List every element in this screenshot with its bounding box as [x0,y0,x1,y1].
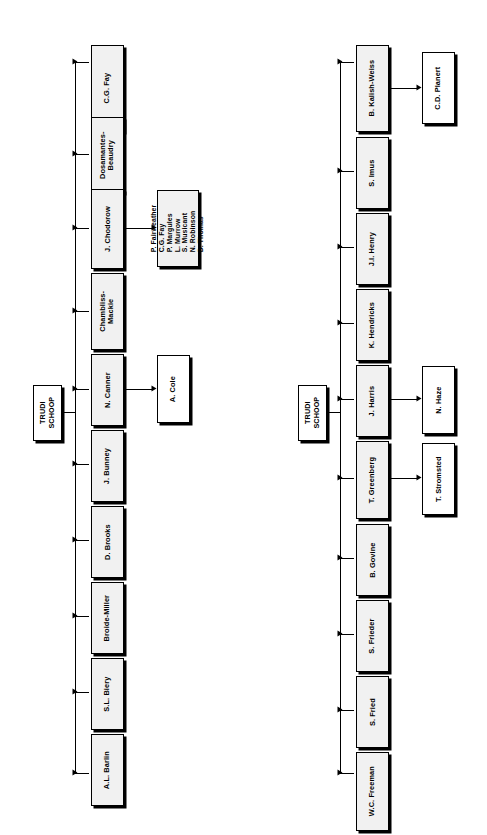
node-broide-miller: Broide-Miller [91,582,124,654]
node-b-kalish-weiss: B. Kalish-Weiss [356,45,389,132]
node-chodorow-students-list: P. Fairweather C.G. Fay P. Margules L. M… [157,190,199,267]
root-node-trudi-schoop-lower: TRUDI SCHOOP [298,385,327,441]
node-label: Chambliss- Mackie [99,291,116,332]
node-t-greenberg: T. Greenberg [356,441,389,519]
connector-line [75,389,89,390]
node-n-canner: N. Canner [91,354,124,426]
connector-line [389,399,417,400]
node-s-imus: S. Imus [356,137,389,209]
node-label: TRUDI SCHOOP [304,397,321,429]
node-label: J.I. Henry [368,232,376,266]
node-a-cole: A. Cole [157,355,190,423]
node-label: A. Cole [169,376,177,402]
node-label: K. Hendricks [368,302,376,348]
connector-line [75,692,89,693]
connector-arrow [152,386,157,392]
spine-upper [75,62,76,773]
node-sl-biery: S.L. Biery [91,658,124,730]
connector-arrow [417,475,422,481]
node-cd-planert: C.D. Planert [422,52,455,124]
org-chart-figure: TRUDI SCHOOP C.G. Fay Dosamantes- Beaudr… [0,0,487,835]
connector-line [340,773,354,774]
connector-line [340,710,354,711]
node-ji-henry: J.I. Henry [356,213,389,285]
node-label: J. Harris [368,386,376,416]
node-label: TRUDI SCHOOP [39,397,56,429]
node-label: S. Fried [368,698,376,726]
node-label: N. Canner [103,372,111,408]
node-label: C.D. Planert [434,66,442,109]
node-j-bunney: J. Bunney [91,430,124,502]
node-s-fried: S. Fried [356,676,389,748]
node-label: S.L. Biery [103,676,111,711]
node-label: W.C. Freeman [368,766,376,816]
node-al-barlin: A.L. Barlin [91,734,124,806]
connector-arrow [417,85,422,91]
node-d-brooks: D. Brooks [91,506,124,578]
connector-line [75,311,89,312]
connector-line [124,228,152,229]
node-label: J. Bunney [103,448,111,484]
connector-line [340,399,354,400]
node-label: P. Fairweather C.G. Fay P. Margules L. M… [150,205,205,253]
connector-line [75,154,89,155]
node-k-hendricks: K. Hendricks [356,289,389,361]
node-label: Broide-Miller [103,595,111,641]
node-label: D. Brooks [103,524,111,560]
connector-line [340,171,354,172]
node-label: C.G. Fay [103,73,111,104]
node-label: S. Imus [368,160,376,187]
node-chambliss-mackie: Chambliss- Mackie [91,273,124,350]
node-label: S. Frieder [368,618,376,653]
node-label: N. Haze [434,386,442,413]
node-label: B. Govine [368,542,376,577]
connector-line [75,464,89,465]
node-label: T. Stromsted [434,456,442,502]
connector-line [340,558,354,559]
connector-line [75,540,89,541]
connector-line [340,247,354,248]
node-b-govine: B. Govine [356,524,389,596]
node-dosamantes-beaudry: Dosamantes- Beaudry [91,117,124,193]
root-stem-upper [62,412,76,413]
root-stem-lower [327,412,341,413]
node-label: T. Greenberg [368,457,376,503]
node-label: A.L. Barlin [103,751,111,789]
connector-line [340,62,354,63]
node-j-harris: J. Harris [356,365,389,437]
connector-line [389,478,417,479]
node-label: J. Chodorow [103,206,111,252]
connector-line [340,634,354,635]
connector-line [75,773,89,774]
node-n-haze: N. Haze [422,366,455,434]
connector-line [75,62,89,63]
connector-line [340,478,354,479]
node-label: Dosamantes- Beaudry [99,131,116,179]
node-wc-freeman: W.C. Freeman [356,752,389,831]
connector-line [75,616,89,617]
connector-line [75,228,89,229]
connector-line [124,389,152,390]
node-s-frieder: S. Frieder [356,600,389,672]
connector-arrow [417,396,422,402]
connector-line [340,323,354,324]
root-node-trudi-schoop-upper: TRUDI SCHOOP [33,385,62,441]
node-t-stromsted: T. Stromsted [422,443,455,515]
connector-line [389,88,417,89]
node-label: B. Kalish-Weiss [368,60,376,117]
node-j-chodorow: J. Chodorow [91,189,124,269]
